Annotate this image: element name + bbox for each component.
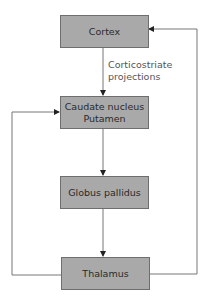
- node-putamen-label: Putamen: [83, 113, 125, 125]
- node-cortex: Cortex: [60, 15, 149, 48]
- node-caudate-putamen: Caudate nucleus Putamen: [60, 96, 149, 129]
- arrow-thalamus-caudate: [12, 112, 61, 275]
- node-globus-label: Globus pallidus: [68, 187, 141, 199]
- node-cortex-label: Cortex: [89, 26, 120, 38]
- edge-label-line2: projections: [108, 71, 172, 83]
- node-thalamus: Thalamus: [61, 257, 150, 290]
- node-caudate-label: Caudate nucleus: [65, 101, 145, 113]
- edge-label-corticostriate: Corticostriate projections: [108, 59, 172, 83]
- node-thalamus-label: Thalamus: [82, 268, 128, 280]
- node-globus-pallidus: Globus pallidus: [60, 176, 149, 209]
- edge-label-line1: Corticostriate: [108, 59, 172, 71]
